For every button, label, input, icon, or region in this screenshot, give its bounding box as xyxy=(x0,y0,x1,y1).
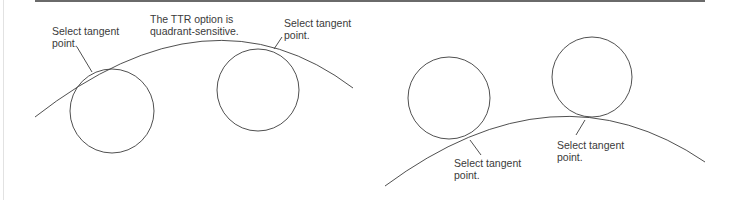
left-leader-2 xyxy=(274,37,282,49)
callout-ttr-note: The TTR option is quadrant-sensitive. xyxy=(150,14,239,37)
left-circle-1 xyxy=(70,69,154,153)
left-circle-2 xyxy=(217,49,299,131)
left-leader-1 xyxy=(77,47,92,72)
callout-right-tangent-1: Select tangent point. xyxy=(454,158,521,181)
right-circle-1 xyxy=(408,57,490,139)
callout-left-tangent-2: Select tangent point. xyxy=(284,18,351,41)
right-leader-1 xyxy=(470,140,481,155)
callout-right-tangent-2: Select tangent point. xyxy=(557,140,624,163)
left-arc xyxy=(35,40,353,117)
callout-left-tangent-1: Select tangent point. xyxy=(52,26,119,49)
right-leader-2 xyxy=(576,120,585,135)
right-circle-2 xyxy=(552,37,632,117)
right-arc xyxy=(385,116,705,186)
